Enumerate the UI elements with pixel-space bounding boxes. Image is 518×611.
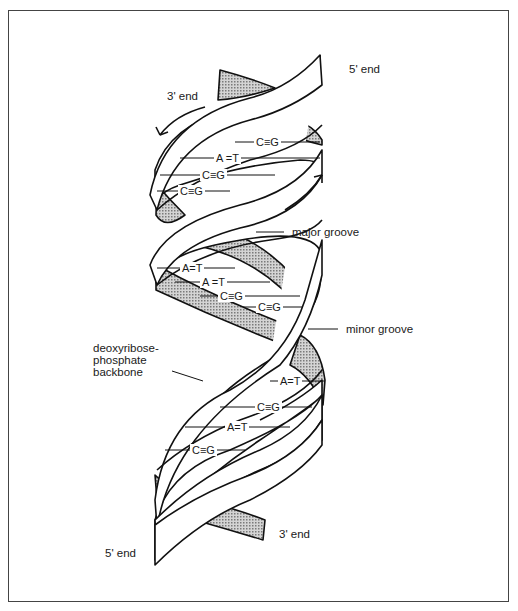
base-pair-5: A=T [180, 262, 204, 274]
base-pair-3: C≡G [200, 169, 227, 181]
base-pair-8: C≡G [256, 301, 283, 313]
top-5-end-label: 5' end [349, 63, 380, 75]
base-pair-9: A=T [278, 375, 302, 387]
bottom-3-end-label: 3' end [279, 528, 310, 540]
base-pair-4: C≡G [178, 185, 205, 197]
base-pair-6: A =T [200, 276, 227, 288]
major-groove-label: major groove [292, 226, 359, 238]
backbone-leader [172, 371, 203, 381]
base-pair-2: A =T [214, 152, 241, 164]
base-pair-12: C≡G [190, 444, 217, 456]
base-pair-7: C≡G [218, 290, 245, 302]
base-pair-11: A=T [225, 421, 249, 433]
backbone-label: deoxyribose- phosphate backbone [93, 342, 159, 378]
base-pair-10: C≡G [255, 401, 282, 413]
base-pair-1: C≡G [254, 136, 281, 148]
minor-groove-label: minor groove [346, 323, 413, 335]
bottom-5-end-label: 5' end [105, 547, 136, 559]
top-3-end-label: 3' end [167, 90, 198, 102]
